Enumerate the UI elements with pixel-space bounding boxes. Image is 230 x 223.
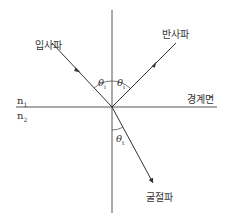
theta-t-sub: t [122,139,124,146]
reflected-wave-label: 반사파 [162,30,189,40]
incident-wave-label: 입사파 [35,41,62,51]
reflected-ray [112,43,176,107]
n1-label: n1 [17,96,27,110]
theta-i-right-sub: i [123,83,125,90]
theta-t-arc [112,127,123,130]
n2-label: n2 [17,111,27,125]
n2-sub: 2 [23,116,27,123]
theta-i-left-label: θi [98,78,106,92]
refraction-diagram [0,0,230,223]
incident-ray [52,43,112,107]
boundary-label: 경계면 [187,95,214,105]
theta-i-left-sub: i [104,83,106,90]
n1-sub: 1 [23,101,27,108]
theta-i-right-label: θi [117,78,125,92]
refracted-wave-label: 굴절파 [146,193,173,203]
theta-t-label: θt [116,134,124,148]
